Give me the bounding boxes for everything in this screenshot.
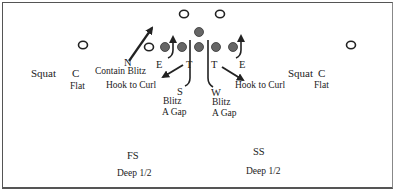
left-tackle-assignment: Hook to Curl	[106, 81, 156, 91]
left-tackle-drop-arrow-icon	[163, 65, 183, 77]
lineman-icon	[229, 43, 238, 52]
wide-receiver-right-icon	[347, 41, 356, 49]
quarterback-icon	[195, 28, 204, 37]
strong-safety-assignment: Deep 1/2	[246, 167, 281, 177]
nose-blitz-arrow-icon	[129, 28, 152, 61]
weak-lb-assignment-1: Blitz	[212, 98, 230, 108]
strong-safety-position: SS	[253, 147, 265, 158]
slot-receiver-left-icon	[145, 43, 154, 51]
left-corner-assignment: Flat	[70, 82, 85, 92]
right-corner-squat-label: Squat	[288, 68, 313, 79]
strong-lb-assignment-2: A Gap	[162, 108, 187, 118]
right-corner-position: C	[318, 68, 325, 79]
receiver-top-left-icon	[180, 10, 189, 18]
right-end-position: E	[239, 60, 245, 71]
wide-receiver-left-icon	[79, 41, 88, 49]
left-corner-squat-label: Squat	[31, 68, 56, 79]
play-diagram	[0, 0, 395, 191]
weak-lb-assignment-2: A Gap	[212, 109, 237, 119]
free-safety-assignment: Deep 1/2	[117, 169, 152, 179]
right-tackle-assignment: Hook to Curl	[235, 81, 285, 91]
nose-assignment: Contain Blitz	[95, 67, 146, 77]
strong-lb-assignment-1: Blitz	[163, 97, 181, 107]
receiver-top-right-icon	[216, 10, 225, 18]
left-corner-position: C	[72, 68, 79, 79]
lineman-icon	[178, 43, 187, 52]
free-safety-position: FS	[127, 151, 139, 162]
left-tackle-position: T	[186, 60, 192, 71]
lineman-icon	[161, 43, 170, 52]
left-end-position: E	[156, 60, 162, 71]
right-tackle-position: T	[211, 60, 217, 71]
right-corner-assignment: Flat	[314, 81, 329, 91]
lineman-icon	[195, 43, 204, 52]
lineman-icon	[212, 43, 221, 52]
